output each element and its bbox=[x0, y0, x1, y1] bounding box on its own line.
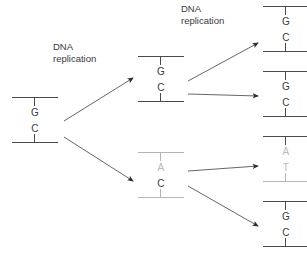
top-base-letter: G bbox=[282, 16, 290, 27]
bottom-base-letter: C bbox=[282, 97, 289, 108]
top-strand-tick bbox=[34, 98, 35, 106]
bottom-strand-tick bbox=[34, 134, 35, 142]
arrow-parent-to-gen1-top bbox=[64, 78, 133, 121]
arrow-gen1top-to-gen2-2 bbox=[188, 94, 258, 96]
bottom-strand-rail bbox=[138, 101, 184, 102]
bottom-strand-rail bbox=[263, 51, 307, 52]
bottom-base-letter: C bbox=[282, 227, 289, 238]
bottom-base-letter: C bbox=[157, 82, 164, 93]
top-strand-rail bbox=[263, 71, 307, 72]
base-pair-letters: GC bbox=[12, 98, 58, 142]
top-base-letter: A bbox=[158, 162, 165, 173]
bottom-strand-tick bbox=[160, 189, 161, 197]
unit-gen2-3: AT bbox=[263, 136, 307, 182]
bottom-strand-tick bbox=[160, 93, 161, 101]
top-base-letter: G bbox=[31, 107, 39, 118]
top-strand-tick bbox=[285, 202, 286, 210]
unit-gen1-bottom: AC bbox=[138, 152, 184, 198]
bottom-strand-tick bbox=[285, 43, 286, 51]
top-strand-tick bbox=[285, 7, 286, 15]
label-gen1: DNA replication bbox=[53, 41, 96, 65]
top-strand-rail bbox=[263, 136, 307, 137]
top-strand-rail bbox=[138, 152, 184, 153]
unit-parent: GC bbox=[12, 97, 58, 143]
top-strand-tick bbox=[160, 57, 161, 65]
top-base-letter: G bbox=[157, 66, 165, 77]
top-strand-tick bbox=[285, 137, 286, 145]
top-base-letter: G bbox=[282, 81, 290, 92]
bottom-strand-rail bbox=[138, 197, 184, 198]
top-strand-rail bbox=[12, 97, 58, 98]
top-strand-tick bbox=[160, 153, 161, 161]
bottom-strand-rail bbox=[263, 116, 307, 117]
top-strand-rail bbox=[263, 6, 307, 7]
top-base-letter: A bbox=[283, 146, 290, 157]
unit-gen2-2: GC bbox=[263, 71, 307, 117]
dna-replication-diagram: DNA replicationDNA replication GCGCACGCG… bbox=[0, 0, 307, 259]
bottom-base-letter: C bbox=[31, 123, 38, 134]
arrow-gen1top-to-gen2-1 bbox=[188, 43, 258, 81]
bottom-strand-rail bbox=[12, 142, 58, 143]
unit-gen1-top: GC bbox=[138, 56, 184, 102]
unit-gen2-4: GC bbox=[263, 201, 307, 247]
base-pair-letters: AC bbox=[138, 153, 184, 197]
bottom-strand-tick bbox=[285, 238, 286, 246]
arrow-parent-to-gen1-bottom bbox=[64, 137, 133, 181]
top-strand-tick bbox=[285, 72, 286, 80]
arrow-gen1bot-to-gen2-3 bbox=[188, 166, 258, 171]
bottom-base-letter: C bbox=[157, 178, 164, 189]
label-gen2: DNA replication bbox=[181, 3, 224, 27]
bottom-base-letter: C bbox=[282, 32, 289, 43]
bottom-strand-tick bbox=[285, 108, 286, 116]
bottom-base-letter: T bbox=[283, 162, 289, 173]
top-strand-rail bbox=[263, 201, 307, 202]
base-pair-letters: GC bbox=[138, 57, 184, 101]
top-strand-rail bbox=[138, 56, 184, 57]
bottom-strand-rail bbox=[263, 181, 307, 182]
top-base-letter: G bbox=[282, 211, 290, 222]
bottom-strand-tick bbox=[285, 173, 286, 181]
bottom-strand-rail bbox=[263, 246, 307, 247]
unit-gen2-1: GC bbox=[263, 6, 307, 52]
arrow-gen1bot-to-gen2-4 bbox=[188, 186, 258, 226]
